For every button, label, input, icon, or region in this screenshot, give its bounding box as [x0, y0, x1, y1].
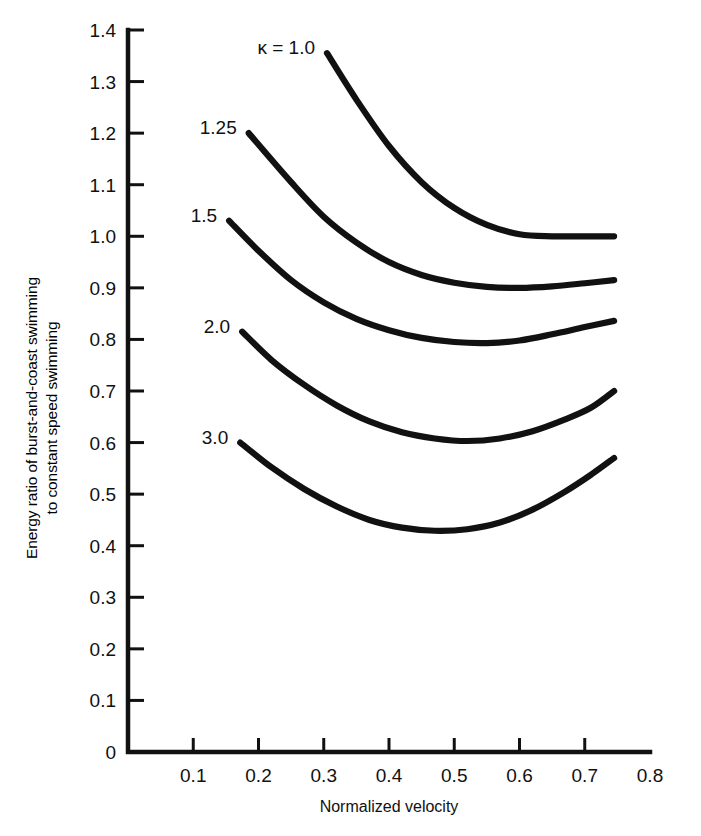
curve-label-3-0: 3.0 — [202, 427, 228, 448]
curves — [229, 53, 614, 531]
x-tick-label: 0.1 — [180, 765, 206, 786]
y-tick-label: 0.6 — [90, 433, 116, 454]
y-tick-label: 1.1 — [90, 175, 116, 196]
curve-label-2-0: 2.0 — [204, 316, 230, 337]
y-tick-label: 1.3 — [90, 72, 116, 93]
curve-label-1-0: κ = 1.0 — [257, 37, 315, 58]
x-axis-title: Normalized velocity — [320, 798, 459, 815]
curve-line — [240, 443, 614, 531]
x-tick-label: 0.3 — [311, 765, 337, 786]
y-tick-label: 0.8 — [90, 329, 116, 350]
x-tick-label: 0.5 — [441, 765, 467, 786]
curve-line — [327, 53, 614, 236]
y-tick-label: 0.9 — [90, 278, 116, 299]
y-axis-ticks: 00.10.20.30.40.50.60.70.80.91.01.11.21.3… — [90, 20, 144, 763]
y-tick-label: 0.5 — [90, 484, 116, 505]
curve-label-1-5: 1.5 — [191, 205, 217, 226]
x-tick-label: 0.7 — [572, 765, 598, 786]
y-tick-label: 0.3 — [90, 587, 116, 608]
x-tick-label: 0.8 — [637, 765, 663, 786]
plot-area: 00.10.20.30.40.50.60.70.80.91.01.11.21.3… — [0, 0, 701, 836]
x-tick-label: 0.4 — [376, 765, 403, 786]
x-tick-label: 0.6 — [506, 765, 532, 786]
y-tick-label: 0.4 — [90, 536, 117, 557]
x-tick-label: 0.2 — [245, 765, 271, 786]
y-tick-label: 0 — [105, 742, 116, 763]
y-tick-label: 0.1 — [90, 690, 116, 711]
chart-page: Energy ratio of burst-and-coast swimming… — [0, 0, 701, 836]
y-tick-label: 0.2 — [90, 639, 116, 660]
curve-line — [249, 133, 614, 288]
y-tick-label: 0.7 — [90, 381, 116, 402]
x-axis-ticks: 0.10.20.30.40.50.60.70.8 — [180, 738, 663, 786]
y-tick-label: 1.2 — [90, 123, 116, 144]
curve-label-1-25: 1.25 — [200, 117, 237, 138]
y-tick-label: 1.0 — [90, 226, 116, 247]
y-tick-label: 1.4 — [90, 20, 117, 41]
axis-lines — [128, 30, 650, 752]
curve-line — [242, 332, 614, 441]
